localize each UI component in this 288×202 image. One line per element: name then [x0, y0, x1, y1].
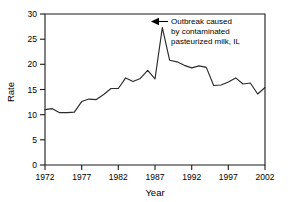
y-tick-label: 10	[28, 110, 38, 120]
x-tick-label: 1982	[109, 172, 128, 182]
y-axis-ticks	[40, 14, 45, 165]
x-axis-ticks	[45, 165, 265, 170]
x-tick-label: 1992	[182, 172, 201, 182]
y-axis-title: Rate	[5, 82, 16, 102]
annotation-arrow	[151, 18, 168, 25]
x-tick-label: 1997	[219, 172, 238, 182]
line-chart: 0 5 10 15 20 25 30 1972 1977 1982 1987 1…	[0, 0, 288, 202]
annotation-line-1: Outbreak caused	[171, 17, 232, 26]
y-tick-label: 15	[28, 85, 38, 95]
annotation-line-3: pasteurized milk, IL	[171, 37, 240, 46]
annotation-line-2: by contaminated	[171, 27, 230, 36]
x-tick-label: 1977	[72, 172, 91, 182]
y-tick-label: 25	[28, 34, 38, 44]
y-axis-tick-labels: 0 5 10 15 20 25 30	[28, 9, 38, 170]
x-axis-tick-labels: 1972 1977 1982 1987 1992 1997 2002	[36, 172, 275, 182]
y-tick-label: 30	[28, 9, 38, 19]
x-tick-label: 1987	[146, 172, 165, 182]
y-tick-label: 20	[28, 59, 38, 69]
chart-container: 0 5 10 15 20 25 30 1972 1977 1982 1987 1…	[0, 0, 288, 202]
x-axis-title: Year	[145, 187, 164, 198]
y-tick-label: 5	[32, 135, 37, 145]
x-tick-label: 1972	[36, 172, 55, 182]
y-tick-label: 0	[32, 160, 37, 170]
x-tick-label: 2002	[256, 172, 275, 182]
outbreak-annotation-text: Outbreak caused by contaminated pasteuri…	[171, 17, 240, 46]
